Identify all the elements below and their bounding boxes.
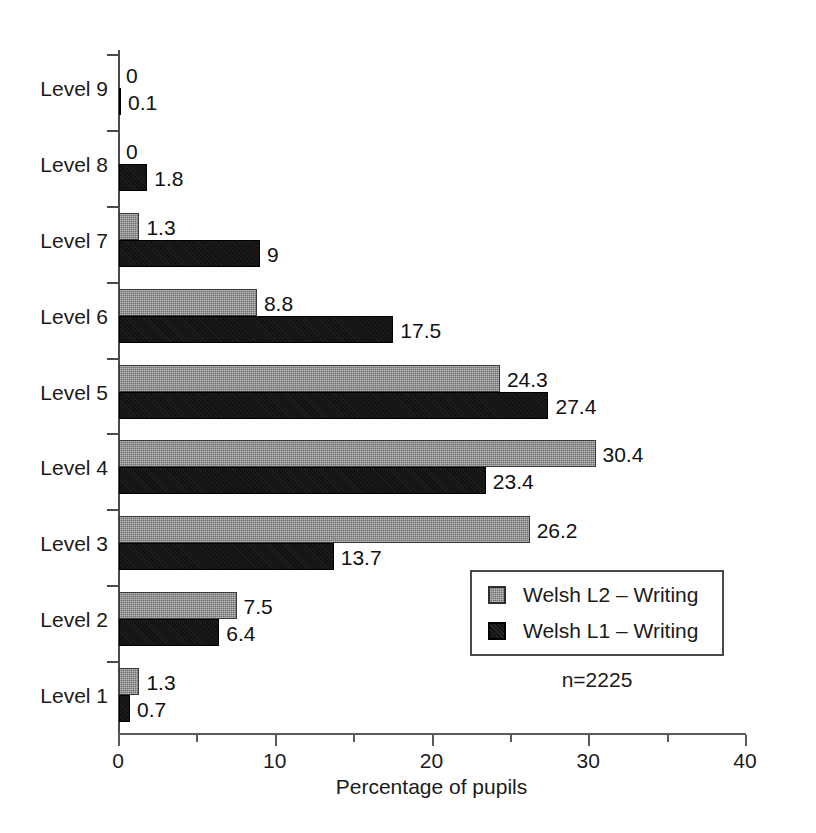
x-axis-title: Percentage of pupils [118, 775, 745, 799]
x-axis-tick-label: 10 [263, 750, 286, 771]
bar-value-label-welsh-l2: 7.5 [244, 596, 273, 617]
bar-value-label-welsh-l1: 0.1 [128, 92, 157, 113]
bar-value-label-welsh-l2: 1.3 [146, 672, 175, 693]
x-axis-tick-label: 30 [577, 750, 600, 771]
bar-welsh-l2 [119, 289, 257, 316]
category-axis-labels: Level 9Level 8Level 7Level 6Level 5Level… [0, 0, 108, 833]
bar-value-label-welsh-l2: 8.8 [264, 293, 293, 314]
category-label: Level 6 [40, 306, 108, 327]
category-axis-tick [107, 509, 118, 511]
bar-value-label-welsh-l2: 26.2 [537, 520, 578, 541]
bar-welsh-l1 [119, 619, 219, 646]
bar-value-label-welsh-l1: 9 [267, 244, 279, 265]
x-axis-tick-label: 20 [420, 750, 443, 771]
category-label: Level 3 [40, 533, 108, 554]
chart-figure: Level 9Level 8Level 7Level 6Level 5Level… [0, 0, 816, 833]
x-axis-tick [118, 735, 120, 746]
bar-welsh-l2 [119, 668, 139, 695]
bar-welsh-l2 [119, 365, 500, 392]
category-label: Level 7 [40, 230, 108, 251]
bar-value-label-welsh-l2: 0 [126, 141, 138, 162]
x-axis-minor-tick [353, 735, 355, 742]
bar-welsh-l1 [119, 316, 393, 343]
category-axis-tick [107, 661, 118, 663]
bar-welsh-l2 [119, 213, 139, 240]
bar-welsh-l1 [119, 164, 147, 191]
bar-value-label-welsh-l1: 0.7 [137, 699, 166, 720]
category-label: Level 2 [40, 609, 108, 630]
bar-value-label-welsh-l2: 24.3 [507, 369, 548, 390]
bar-value-label-welsh-l1: 23.4 [493, 471, 534, 492]
bar-value-label-welsh-l2: 30.4 [603, 444, 644, 465]
category-label: Level 9 [40, 78, 108, 99]
bar-value-label-welsh-l1: 1.8 [154, 168, 183, 189]
legend-entry-welsh-l2: Welsh L2 – Writing [488, 584, 698, 605]
bar-value-label-welsh-l2: 0 [126, 65, 138, 86]
category-axis-tick [107, 54, 118, 56]
category-axis-tick [107, 130, 118, 132]
bar-welsh-l1 [119, 240, 260, 267]
bar-welsh-l2 [119, 592, 237, 619]
bar-value-label-welsh-l1: 13.7 [341, 547, 382, 568]
bar-value-label-welsh-l2: 1.3 [146, 217, 175, 238]
bar-welsh-l1 [119, 392, 548, 419]
legend-entry-label: Welsh L2 – Writing [523, 584, 698, 605]
category-label: Level 4 [40, 457, 108, 478]
category-label: Level 5 [40, 382, 108, 403]
category-axis-tick [107, 282, 118, 284]
category-label: Level 1 [40, 685, 108, 706]
bar-value-label-welsh-l1: 6.4 [226, 623, 255, 644]
legend-entry-welsh-l1: Welsh L1 – Writing [488, 620, 698, 641]
bar-welsh-l1 [119, 695, 130, 722]
bar-value-label-welsh-l1: 17.5 [400, 320, 441, 341]
bar-welsh-l1 [119, 88, 121, 115]
category-axis-tick [107, 585, 118, 587]
sample-size-annotation: n=2225 [470, 668, 724, 692]
x-axis-tick-label: 40 [733, 750, 756, 771]
bar-value-label-welsh-l1: 27.4 [555, 396, 596, 417]
bar-welsh-l1 [119, 467, 486, 494]
category-axis-tick [107, 433, 118, 435]
bar-welsh-l1 [119, 543, 334, 570]
x-axis-tick [745, 735, 747, 746]
x-axis-minor-tick [667, 735, 669, 742]
x-axis-tick-label: 0 [112, 750, 124, 771]
grey-square-icon [488, 586, 506, 604]
x-axis-minor-tick [510, 735, 512, 742]
bar-welsh-l2 [119, 516, 530, 543]
x-axis-tick [275, 735, 277, 746]
x-axis-tick [432, 735, 434, 746]
x-axis-minor-tick [196, 735, 198, 742]
category-label: Level 8 [40, 154, 108, 175]
legend: Welsh L2 – Writing Welsh L1 – Writing [470, 570, 724, 656]
legend-entry-label: Welsh L1 – Writing [523, 620, 698, 641]
category-axis-tick [107, 358, 118, 360]
black-square-icon [488, 622, 506, 640]
bar-welsh-l2 [119, 440, 596, 467]
x-axis-tick [588, 735, 590, 746]
category-axis-tick [107, 206, 118, 208]
